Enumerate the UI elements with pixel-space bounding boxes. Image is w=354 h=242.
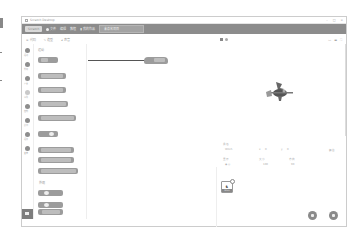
edge-mark [0,52,2,53]
title-bar: Scratch Desktop – □ × [22,17,346,24]
menu-my-stuff[interactable]: ▮我的作品 [80,27,95,31]
edge-mark [0,18,3,28]
category-sensing[interactable] [25,118,30,123]
window-title: Scratch Desktop [30,18,55,22]
sprite-info-panel: 角色 Witch x 0 y 0 显示 ◉ ◎ 大小 100 方向 90 舞台 [219,138,346,176]
palette-section-motion: 运动 [38,48,44,52]
category-sound[interactable] [25,76,30,81]
block-turn-left[interactable] [38,87,66,93]
code-icon: ≡ [26,38,29,42]
category-variables[interactable] [25,146,30,151]
category-motion[interactable] [25,48,30,53]
fullscreen-button[interactable]: ⛶ [340,38,342,42]
menu-bar: Scratch 文件 编辑 教程 ▮我的作品 未命名项目 [22,24,346,34]
image-icon [332,214,335,217]
stage-header: ▭ ▬ ⛶ [216,36,346,43]
stop-button[interactable] [225,38,228,41]
palette-section-looks: 外观 [39,181,45,185]
sprite-thumb-witch[interactable]: ♞ Witch [221,181,233,193]
choose-backdrop-button[interactable] [329,211,338,220]
category-control[interactable] [25,104,30,109]
delete-sprite-button[interactable] [230,179,235,184]
block-point-direction[interactable] [38,157,74,163]
globe-icon [46,28,49,31]
witch-sprite[interactable] [264,80,294,104]
close-button[interactable]: × [340,18,343,22]
background-edge [0,0,10,242]
drag-connector-line [88,60,146,61]
x-field[interactable]: 0 [265,148,267,151]
block-turn-right[interactable] [38,73,66,79]
block-point-towards[interactable] [38,168,78,174]
size-field[interactable]: 100 [263,163,268,166]
block-say-secs[interactable] [38,202,63,208]
cat-icon [311,214,314,217]
tutorial-icon: ▮ [80,27,82,31]
menu-tutorials[interactable]: 教程 [70,27,76,31]
script-area[interactable] [88,44,215,228]
stage-selector[interactable] [207,167,217,227]
category-looks[interactable] [25,62,30,67]
choose-sprite-button[interactable] [308,211,317,220]
add-extension-button[interactable] [22,209,33,219]
category-operators[interactable] [25,132,30,137]
sound-icon: ◂ [61,38,63,42]
menu-edit[interactable]: 编辑 [60,27,66,31]
block-palette: 运动 外观 [35,44,87,219]
tab-code[interactable]: ≡代码 [26,38,36,42]
block-say[interactable] [38,190,63,196]
show-toggle[interactable]: ◉ ◎ [225,163,230,166]
app-icon [25,19,28,22]
sprite-name-field[interactable]: Witch [225,148,232,151]
tab-sounds[interactable]: ◂声音 [61,38,70,42]
maximize-button[interactable]: □ [333,18,336,22]
sprite-list: ♞ Witch [219,177,346,227]
project-title-input[interactable]: 未命名项目 [99,25,144,33]
category-events[interactable] [25,90,30,95]
menu-file[interactable]: 文件 [46,27,56,31]
extension-icon [25,212,29,215]
scratch-logo[interactable]: Scratch [25,26,42,32]
script-block-move[interactable] [144,57,168,64]
y-field[interactable]: 0 [287,148,289,151]
block-glide-xy[interactable] [38,147,74,153]
brush-icon: ✎ [44,38,47,42]
edge-mark [0,80,2,81]
large-stage-button[interactable]: ▬ [334,38,337,42]
block-glide-random[interactable] [38,131,58,137]
direction-field[interactable]: 90 [291,163,294,166]
tab-costumes[interactable]: ✎造型 [44,38,54,42]
category-menu: 运动 外观 声音 事件 控制 侦测 运算 变量 [22,44,34,219]
stage-canvas[interactable] [216,44,346,136]
app-window: Scratch Desktop – □ × Scratch 文件 编辑 教程 ▮… [21,16,347,227]
block-goto-random[interactable] [38,101,68,107]
green-flag-button[interactable] [220,38,223,41]
block-goto-xy[interactable] [38,115,76,121]
editor-tabs: ≡代码 ✎造型 ◂声音 [22,36,70,43]
block-move-steps[interactable] [38,57,58,63]
minimize-button[interactable]: – [326,18,328,22]
block-think[interactable] [38,209,63,215]
small-stage-button[interactable]: ▭ [328,38,331,42]
